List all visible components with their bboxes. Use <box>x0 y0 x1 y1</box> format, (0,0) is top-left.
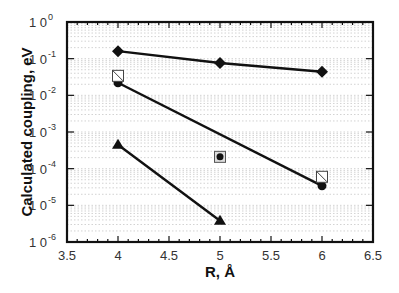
y-tick-exponent: -4 <box>48 159 56 169</box>
x-tick-label: 4 <box>114 248 121 263</box>
x-axis-title: R, Å <box>205 263 235 280</box>
y-tick-exponent: -2 <box>48 85 56 95</box>
circle-marker <box>217 153 224 160</box>
y-tick-exponent: -1 <box>48 49 56 59</box>
y-tick-exponent: -3 <box>48 122 56 132</box>
x-tick-label: 5 <box>216 248 223 263</box>
diamond-marker <box>112 45 124 57</box>
coupling-vs-distance-chart: 3.544.555.566.5 1 001 0-11 0-21 0-31 0-4… <box>0 0 399 293</box>
x-tick-label: 6 <box>318 248 325 263</box>
diamond-marker <box>316 66 328 78</box>
x-tick-label: 3.5 <box>58 248 76 263</box>
x-tick-label: 5.5 <box>262 248 280 263</box>
diamond-marker <box>214 57 226 69</box>
y-tick-label: 1 0 <box>29 15 47 30</box>
series-lines <box>118 51 322 221</box>
grid-lines <box>67 24 373 242</box>
series-line <box>118 145 220 221</box>
y-tick-exponent: -5 <box>48 195 56 205</box>
y-tick-label: 1 0 <box>29 235 47 250</box>
y-tick-exponent: -6 <box>48 232 56 242</box>
x-tick-label: 4.5 <box>160 248 178 263</box>
x-tick-label: 6.5 <box>364 248 382 263</box>
y-axis-title: Calculated coupling, eV <box>18 47 35 216</box>
y-tick-exponent: 0 <box>48 12 53 22</box>
